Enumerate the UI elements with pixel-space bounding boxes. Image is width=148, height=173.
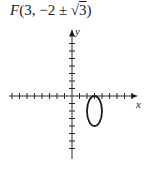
y-axis-label: y xyxy=(75,26,80,37)
ellipse-plot xyxy=(0,0,148,173)
y-axis-arrow-icon xyxy=(70,29,75,36)
ellipse-curve xyxy=(87,96,102,126)
x-axis-label: x xyxy=(136,99,141,110)
